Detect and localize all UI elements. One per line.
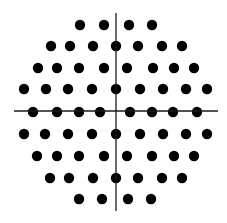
dot bbox=[33, 63, 43, 73]
dot bbox=[63, 84, 73, 94]
dot bbox=[133, 173, 143, 183]
dot bbox=[97, 194, 107, 204]
dot bbox=[168, 107, 178, 117]
dot bbox=[158, 129, 168, 139]
dot bbox=[19, 84, 29, 94]
dot bbox=[63, 129, 73, 139]
dot bbox=[32, 151, 42, 161]
dot bbox=[46, 41, 56, 51]
dot bbox=[87, 129, 97, 139]
dot bbox=[95, 107, 105, 117]
dot bbox=[181, 84, 191, 94]
dot-grid-diagram bbox=[0, 0, 227, 223]
dot bbox=[147, 107, 157, 117]
dot bbox=[28, 107, 38, 117]
dot bbox=[169, 63, 179, 73]
dot-grid-canvas bbox=[0, 0, 227, 223]
dot bbox=[133, 41, 143, 51]
dot bbox=[157, 41, 167, 51]
dot bbox=[147, 20, 157, 30]
dot bbox=[189, 151, 199, 161]
dot bbox=[177, 173, 187, 183]
dot bbox=[88, 173, 98, 183]
dot bbox=[157, 173, 167, 183]
dot bbox=[158, 84, 168, 94]
dot bbox=[135, 84, 145, 94]
dot bbox=[122, 63, 132, 73]
dot bbox=[99, 20, 109, 30]
dot bbox=[45, 173, 55, 183]
dot bbox=[181, 129, 191, 139]
dot bbox=[192, 107, 202, 117]
dot bbox=[122, 151, 132, 161]
dot bbox=[148, 63, 158, 73]
dot bbox=[125, 107, 135, 117]
dot bbox=[123, 194, 133, 204]
dot bbox=[19, 129, 29, 139]
dot bbox=[74, 63, 84, 73]
dot bbox=[147, 151, 157, 161]
dot bbox=[202, 84, 212, 94]
dot bbox=[64, 173, 74, 183]
dot bbox=[202, 129, 212, 139]
dot bbox=[74, 151, 84, 161]
dot bbox=[189, 63, 199, 73]
dot bbox=[52, 107, 62, 117]
dot bbox=[99, 151, 109, 161]
dot bbox=[135, 129, 145, 139]
dot bbox=[74, 107, 84, 117]
dot bbox=[88, 41, 98, 51]
dot bbox=[52, 63, 62, 73]
dot bbox=[74, 194, 84, 204]
dot bbox=[87, 84, 97, 94]
dot bbox=[65, 41, 75, 51]
dot bbox=[169, 151, 179, 161]
dot bbox=[75, 20, 85, 30]
dot bbox=[124, 20, 134, 30]
dot bbox=[41, 84, 51, 94]
dot bbox=[177, 41, 187, 51]
dot bbox=[99, 63, 109, 73]
dot bbox=[40, 129, 50, 139]
dot bbox=[52, 151, 62, 161]
dot bbox=[146, 194, 156, 204]
